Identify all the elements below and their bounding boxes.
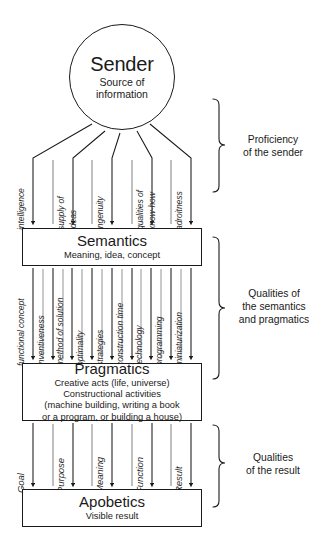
- sender-title: Sender: [90, 54, 153, 75]
- arrow-label-inventiveness: inventiveness: [36, 315, 46, 366]
- bracket-qualities-semantics-pragmatics: [213, 237, 225, 379]
- apobetics-subtitle: Visible result: [86, 511, 139, 522]
- pragmatics-line3: (machine building, writing a book: [44, 400, 179, 411]
- pragmatics-line2: Constructional activities: [63, 389, 161, 400]
- arrow-label-ingenuity: ingenuity: [95, 196, 105, 230]
- arrow-label-supply-of: supply of: [56, 197, 66, 231]
- arrow-label-purpose: Purpose: [55, 458, 66, 493]
- bracket-proficiency-line1: Proficiency: [228, 134, 318, 147]
- bracket-label-qualities-of-the-result: Qualities of the result: [228, 452, 318, 478]
- bracket-qualities-result-line2: of the result: [228, 465, 318, 478]
- pragmatics-line4: or a program, or building a house): [42, 412, 182, 423]
- bracket-label-qualities-of-the-semantics-and-pragmatics: Qualities of the semantics and pragmatic…: [228, 288, 320, 327]
- pragmatics-title: Pragmatics: [74, 361, 149, 378]
- semantics-title: Semantics: [77, 233, 147, 250]
- arrow-label-method-of-solution: method of solution: [55, 298, 65, 366]
- arrow-label-intelligence: intelligence: [16, 188, 26, 230]
- semantics-subtitle: Meaning, idea, concept: [64, 250, 160, 261]
- level-box-apobetics: Apobetics Visible result: [22, 489, 202, 527]
- bracket-qualities-sp-line1: Qualities of: [228, 288, 320, 301]
- arrow-label-function: Function: [134, 457, 145, 493]
- bracket-qualities-sp-line2: the semantics: [228, 301, 320, 314]
- sender-node: Sender Source of information: [69, 24, 175, 130]
- arrow-label-meaning: Meaning: [94, 457, 105, 493]
- arrow-label-construction-time: construction time: [115, 303, 125, 366]
- arrow-label-programming: programming: [154, 316, 164, 366]
- pragmatics-line1: Creative acts (life, universe): [54, 378, 169, 389]
- arrow-label-qualities-of: qualities of: [135, 190, 145, 230]
- sender-subtitle-line2: information: [96, 88, 148, 100]
- bracket-qualities-result-line1: Qualities: [228, 452, 318, 465]
- level-box-semantics: Semantics Meaning, idea, concept: [22, 228, 202, 266]
- sender-subtitle: Source of information: [96, 76, 148, 100]
- apobetics-title: Apobetics: [79, 494, 145, 511]
- arrow-label-miniaturization: miniaturization: [174, 312, 184, 366]
- bracket-qualities-sp-line3: and pragmatics: [228, 314, 320, 327]
- bracket-qualities-result: [213, 425, 225, 507]
- arrow-label-know-how: know-how: [147, 192, 157, 230]
- bracket-proficiency-line2: of the sender: [228, 147, 318, 160]
- arrow-label-functional-concept: functional concept: [16, 299, 26, 366]
- arrow-label-adroitness: adroitness: [174, 191, 184, 230]
- level-box-pragmatics: Pragmatics Creative acts (life, universe…: [22, 363, 202, 421]
- bracket-proficiency: [213, 99, 225, 192]
- sender-subtitle-line1: Source of: [96, 76, 148, 88]
- bracket-label-proficiency-of-the-sender: Proficiency of the sender: [228, 134, 318, 160]
- arrow-label-ideas: ideas: [68, 210, 78, 230]
